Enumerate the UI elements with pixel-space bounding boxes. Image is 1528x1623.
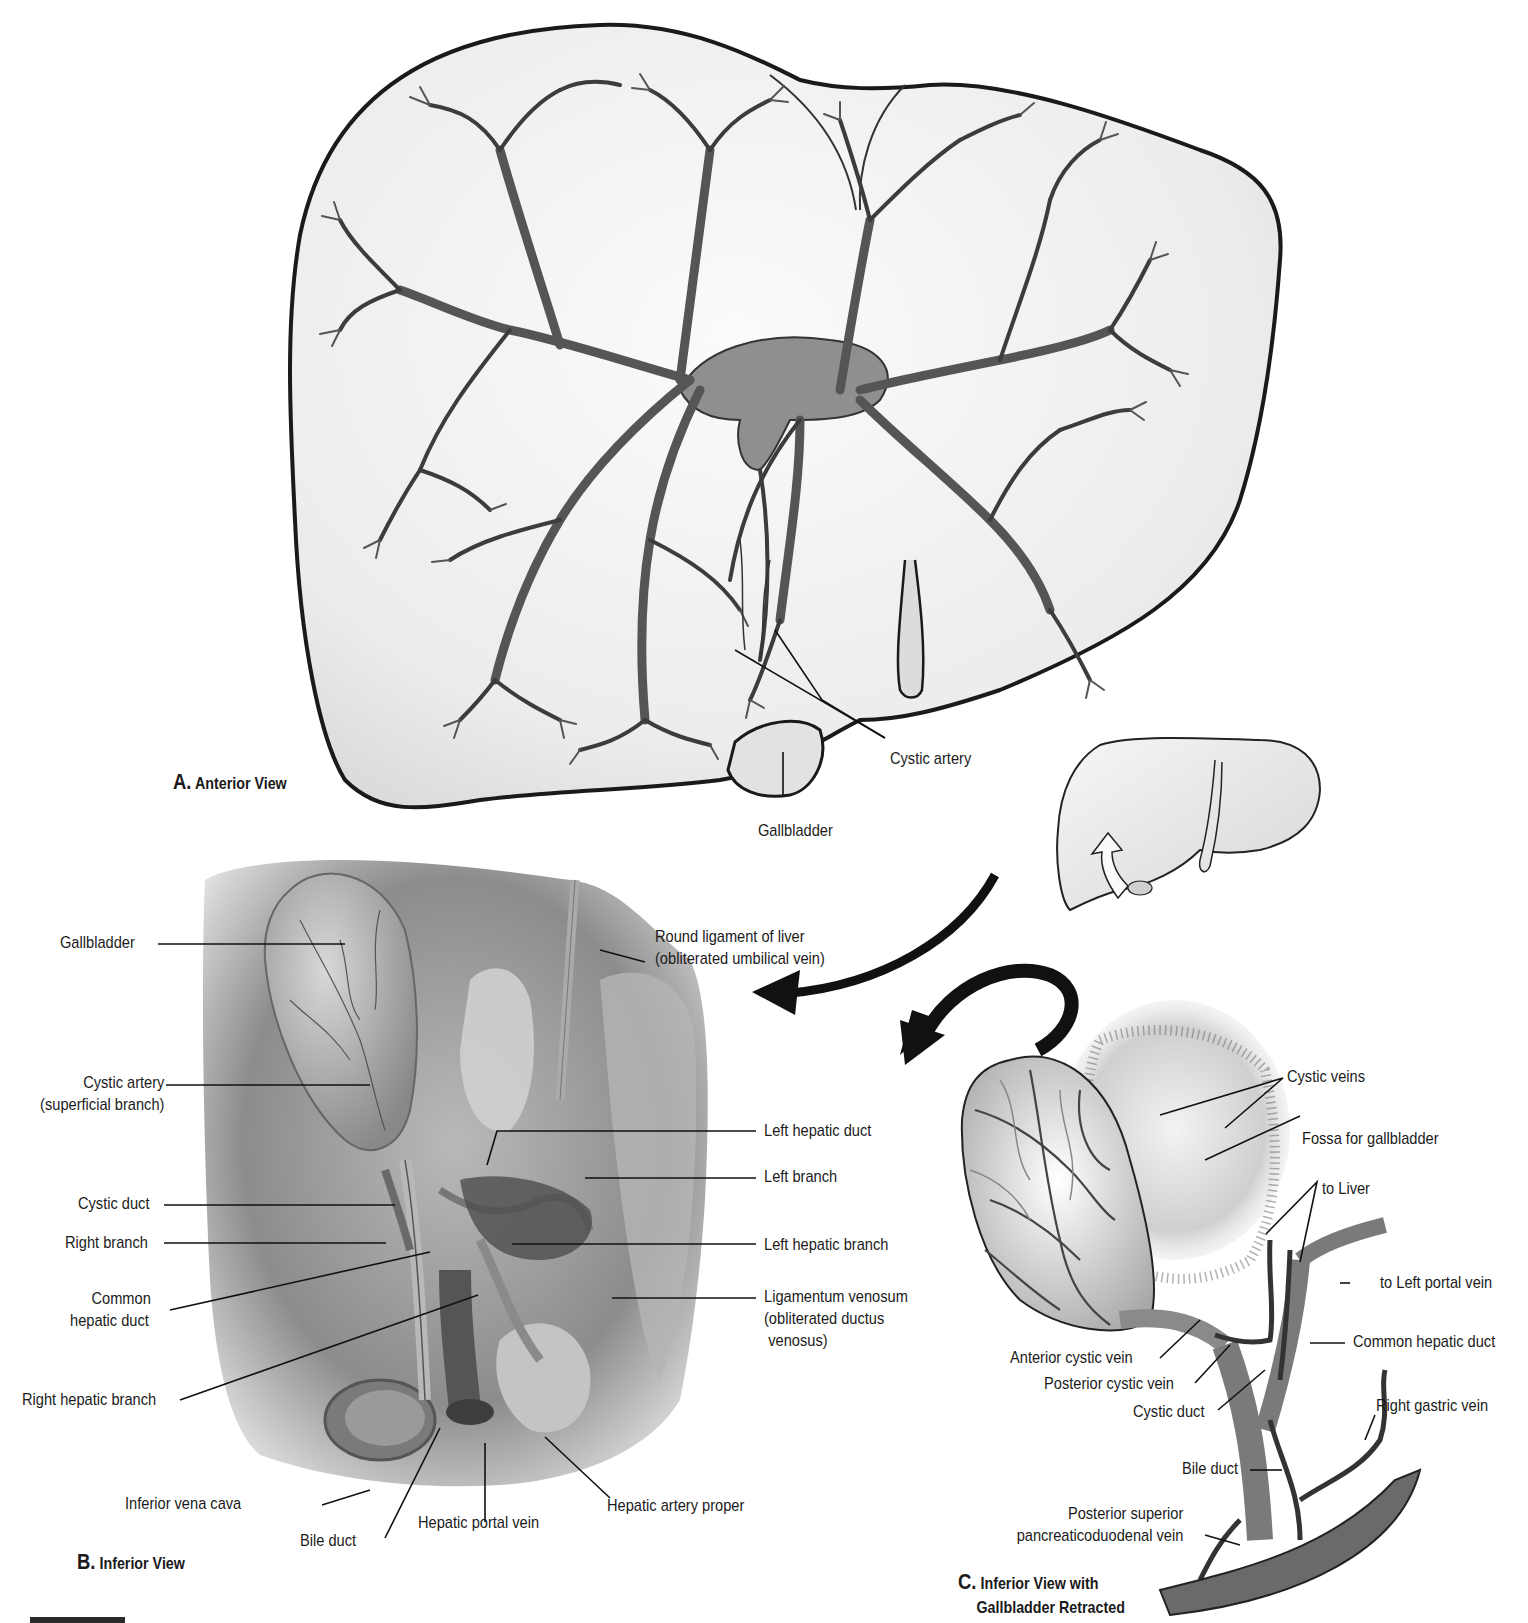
panel-b-title: Inferior View: [99, 1554, 184, 1573]
panel-a-liver: [290, 25, 1281, 808]
label-b-right-branch: Right branch: [65, 1232, 148, 1254]
label-c-posterior-superior-pancreaticoduodenal-vein: Posterior superior pancreaticoduodenal v…: [1012, 1503, 1183, 1547]
label-c-bile-duct: Bile duct: [1182, 1458, 1238, 1480]
anatomy-illustration: [0, 0, 1528, 1623]
panel-a-caption: A. Anterior View: [173, 770, 287, 796]
label-c-pspd-line2: pancreaticoduodenal vein: [1012, 1525, 1183, 1547]
label-b-lv-line1: Ligamentum venosum: [764, 1286, 908, 1308]
label-c-pspd-line1: Posterior superior: [1012, 1503, 1183, 1525]
label-b-gallbladder: Gallbladder: [60, 932, 135, 954]
label-b-bile-duct: Bile duct: [300, 1530, 356, 1552]
label-b-chd-line2: hepatic duct: [70, 1310, 151, 1332]
label-c-right-gastric-vein: Right gastric vein: [1376, 1395, 1488, 1417]
panel-b-caption: B. Inferior View: [77, 1550, 185, 1576]
label-b-inferior-vena-cava: Inferior vena cava: [125, 1493, 241, 1515]
label-c-to-left-portal-vein: to Left portal vein: [1380, 1272, 1492, 1294]
label-c-posterior-cystic-vein: Posterior cystic vein: [1044, 1373, 1174, 1395]
label-b-right-hepatic-branch: Right hepatic branch: [22, 1389, 156, 1411]
label-b-round-ligament-line2: (obliterated umbilical vein): [655, 948, 825, 970]
label-b-chd-line1: Common: [70, 1288, 151, 1310]
label-a-cystic-artery: Cystic artery: [890, 748, 971, 770]
label-b-left-branch: Left branch: [764, 1166, 837, 1188]
label-c-cystic-veins: Cystic veins: [1287, 1066, 1365, 1088]
label-c-fossa-for-gallbladder: Fossa for gallbladder: [1302, 1128, 1439, 1150]
panel-a-letter: A.: [173, 769, 191, 794]
panel-c-title-line1: Inferior View with: [980, 1574, 1098, 1593]
liver-rotate-inferior-icon: [1057, 738, 1320, 910]
panel-c-caption: C. Inferior View with Gallbladder Retrac…: [958, 1570, 1125, 1620]
label-b-left-hepatic-branch: Left hepatic branch: [764, 1234, 888, 1256]
retract-arrow-icon: [900, 971, 1072, 1065]
label-b-hepatic-artery-proper: Hepatic artery proper: [607, 1495, 744, 1517]
label-b-cystic-duct: Cystic duct: [78, 1193, 150, 1215]
label-c-to-liver: to Liver: [1322, 1178, 1370, 1200]
label-c-anterior-cystic-vein: Anterior cystic vein: [1010, 1347, 1133, 1369]
label-b-cystic-artery-line2: (superficial branch): [35, 1094, 164, 1116]
panel-c-letter: C.: [958, 1569, 976, 1594]
label-b-cystic-artery: Cystic artery (superficial branch): [35, 1072, 164, 1116]
label-c-cystic-duct: Cystic duct: [1133, 1401, 1205, 1423]
label-b-round-ligament: Round ligament of liver (obliterated umb…: [655, 926, 825, 970]
label-b-ligamentum-venosum: Ligamentum venosum (obliterated ductus v…: [764, 1286, 908, 1352]
panel-c-title-line2: Gallbladder Retracted: [958, 1596, 1125, 1620]
page-marker-bar: [30, 1617, 125, 1623]
label-b-left-hepatic-duct: Left hepatic duct: [764, 1120, 871, 1142]
label-a-gallbladder: Gallbladder: [758, 820, 833, 842]
label-b-lv-line2: (obliterated ductus: [764, 1308, 908, 1330]
label-b-cystic-artery-line1: Cystic artery: [35, 1072, 164, 1094]
label-b-lv-line3: venosus): [764, 1330, 908, 1352]
label-c-common-hepatic-duct: Common hepatic duct: [1353, 1331, 1495, 1353]
label-b-round-ligament-line1: Round ligament of liver: [655, 926, 825, 948]
label-b-common-hepatic-duct: Common hepatic duct: [70, 1288, 151, 1332]
label-b-hepatic-portal-vein: Hepatic portal vein: [418, 1512, 539, 1534]
panel-a-title: Anterior View: [195, 774, 287, 793]
panel-b-liver: [203, 860, 708, 1486]
panel-b-letter: B.: [77, 1549, 95, 1574]
